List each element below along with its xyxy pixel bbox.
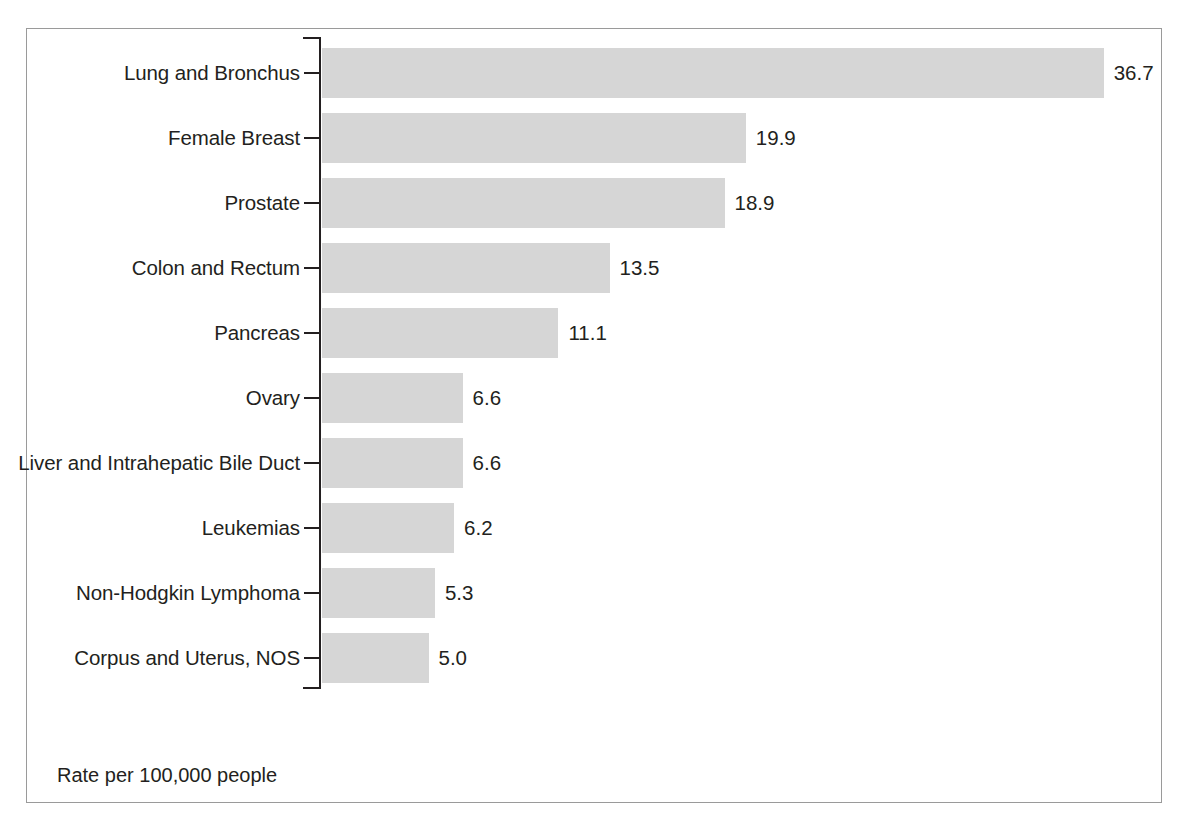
axis-tick bbox=[304, 72, 320, 74]
bar-row: Corpus and Uterus, NOS5.0 bbox=[0, 625, 1187, 690]
category-label: Leukemias bbox=[202, 517, 300, 538]
bar-row: Liver and Intrahepatic Bile Duct6.6 bbox=[0, 430, 1187, 495]
bar[interactable] bbox=[322, 48, 1104, 98]
category-label: Lung and Bronchus bbox=[124, 62, 300, 83]
axis-footnote: Rate per 100,000 people bbox=[57, 765, 277, 785]
category-label: Liver and Intrahepatic Bile Duct bbox=[18, 452, 300, 473]
category-label: Prostate bbox=[224, 192, 300, 213]
axis-tick bbox=[304, 462, 320, 464]
bar[interactable] bbox=[322, 243, 610, 293]
axis-tick bbox=[304, 137, 320, 139]
bar[interactable] bbox=[322, 113, 746, 163]
bar-row: Leukemias6.2 bbox=[0, 495, 1187, 560]
bar-value-label: 18.9 bbox=[735, 192, 775, 213]
axis-tick bbox=[304, 527, 320, 529]
bar[interactable] bbox=[322, 633, 429, 683]
chart-figure: Lung and Bronchus36.7Female Breast19.9Pr… bbox=[0, 0, 1187, 825]
bar[interactable] bbox=[322, 178, 725, 228]
category-label: Corpus and Uterus, NOS bbox=[74, 647, 300, 668]
bar-value-label: 19.9 bbox=[756, 127, 796, 148]
axis-tick bbox=[304, 202, 320, 204]
bar-value-label: 6.6 bbox=[473, 452, 502, 473]
category-label: Colon and Rectum bbox=[132, 257, 300, 278]
bar-value-label: 5.3 bbox=[445, 582, 474, 603]
bar-value-label: 6.6 bbox=[473, 387, 502, 408]
axis-tick bbox=[304, 267, 320, 269]
bar-row: Prostate18.9 bbox=[0, 170, 1187, 235]
bar-value-label: 11.1 bbox=[568, 322, 606, 343]
bar[interactable] bbox=[322, 503, 454, 553]
axis-tick bbox=[304, 332, 320, 334]
bar-row: Colon and Rectum13.5 bbox=[0, 235, 1187, 300]
bar-row: Ovary6.6 bbox=[0, 365, 1187, 430]
axis-tick bbox=[304, 397, 320, 399]
category-label: Female Breast bbox=[168, 127, 300, 148]
bar-value-label: 5.0 bbox=[439, 647, 468, 668]
bar-row: Female Breast19.9 bbox=[0, 105, 1187, 170]
bar-value-label: 36.7 bbox=[1114, 62, 1154, 83]
bar[interactable] bbox=[322, 438, 463, 488]
category-label: Non-Hodgkin Lymphoma bbox=[76, 582, 300, 603]
bar-row: Lung and Bronchus36.7 bbox=[0, 40, 1187, 105]
bar-value-label: 6.2 bbox=[464, 517, 493, 538]
plot-area: Lung and Bronchus36.7Female Breast19.9Pr… bbox=[0, 0, 1187, 825]
category-label: Pancreas bbox=[214, 322, 300, 343]
category-label: Ovary bbox=[246, 387, 300, 408]
bar[interactable] bbox=[322, 308, 558, 358]
bar-row: Non-Hodgkin Lymphoma5.3 bbox=[0, 560, 1187, 625]
bar-row: Pancreas11.1 bbox=[0, 300, 1187, 365]
category-axis-cap-top bbox=[303, 37, 321, 39]
bar[interactable] bbox=[322, 568, 435, 618]
bar[interactable] bbox=[322, 373, 463, 423]
bar-value-label: 13.5 bbox=[620, 257, 660, 278]
axis-tick bbox=[304, 657, 320, 659]
axis-tick bbox=[304, 592, 320, 594]
